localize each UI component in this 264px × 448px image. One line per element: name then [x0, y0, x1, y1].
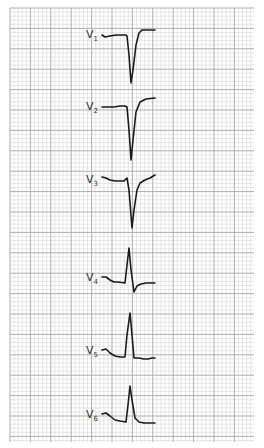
ecg-strip: V1V2V3V4V5V6	[0, 0, 264, 448]
lead-label: V1	[86, 28, 98, 43]
lead-label: V5	[86, 344, 98, 359]
lead-label: V6	[86, 408, 99, 423]
lead-label: V2	[86, 100, 98, 115]
